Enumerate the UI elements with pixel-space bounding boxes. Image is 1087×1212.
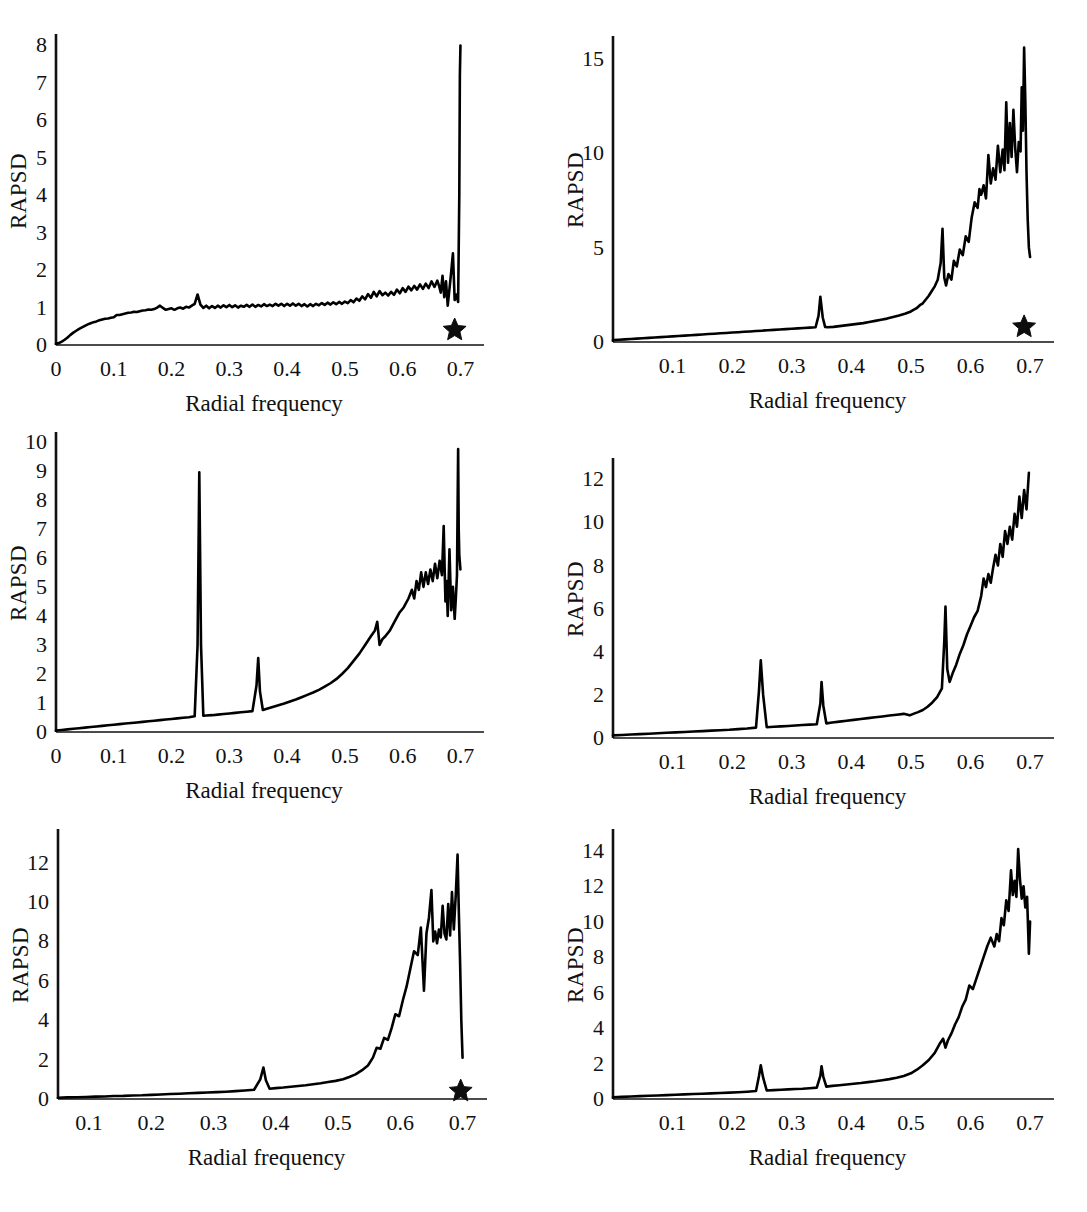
panel-grid: 01234567800.10.20.30.40.50.60.7 RAPSD Ra… [0,0,1087,1205]
x-tick-label: 0.4 [273,356,301,381]
x-tick-label: 0.1 [75,1110,103,1135]
x-tick-label: 0.3 [778,1110,806,1135]
x-tick-label: 0.4 [273,743,301,768]
rapsd-curve [613,48,1030,341]
y-tick-label: 4 [38,1007,49,1032]
x-tick-label: 0.3 [216,356,244,381]
star-marker [449,1079,472,1101]
y-tick-label: 10 [25,429,47,454]
y-tick-label: 4 [593,639,604,664]
x-tick-label: 0.6 [389,743,417,768]
x-tick-label: 0.4 [262,1110,290,1135]
panel-mid-right: 0246810120.10.20.30.40.50.60.7 RAPSD Rad… [545,400,1087,805]
y-tick-label: 6 [36,107,47,132]
x-tick-label: 0.2 [718,353,746,378]
x-tick-label: 0.2 [718,749,746,774]
y-tick-label: 7 [36,70,47,95]
panel-top-left-plot: 01234567800.10.20.30.40.50.60.7 [0,0,545,400]
x-tick-label: 0.6 [389,356,417,381]
x-tick-label: 0.6 [387,1110,415,1135]
x-tick-label: 0.6 [957,353,985,378]
y-tick-label: 2 [36,661,47,686]
x-tick-label: 0.5 [897,1110,925,1135]
y-tick-label: 9 [36,458,47,483]
rapsd-curve [56,45,460,343]
x-tick-label: 0.1 [659,1110,687,1135]
x-tick-label: 0.3 [778,353,806,378]
y-tick-label: 5 [36,145,47,170]
x-tick-label: 0.5 [331,743,359,768]
x-tick-label: 0.1 [100,743,128,768]
y-tick-label: 5 [593,235,604,260]
panel-top-left: 01234567800.10.20.30.40.50.60.7 RAPSD Ra… [0,0,545,400]
y-tick-label: 0 [36,332,47,357]
x-tick-label: 0.5 [324,1110,352,1135]
panel-top-left-ylabel: RAPSD [6,116,32,266]
panel-mid-left-ylabel: RAPSD [6,508,32,658]
panel-bottom-right-ylabel: RAPSD [563,890,589,1040]
y-tick-label: 4 [593,1015,604,1040]
x-tick-label: 0.7 [1016,749,1043,774]
rapsd-curve [613,849,1030,1097]
x-tick-label: 0.2 [158,356,186,381]
x-tick-label: 0.5 [897,353,925,378]
y-tick-label: 1 [36,295,47,320]
y-tick-label: 2 [593,682,604,707]
y-tick-label: 0 [593,329,604,354]
panel-mid-right-ylabel: RAPSD [563,524,589,674]
panel-mid-left: 01234567891000.10.20.30.40.50.60.7 RAPSD… [0,400,545,805]
star-marker [1013,315,1036,337]
y-tick-label: 2 [36,257,47,282]
y-tick-label: 1 [36,690,47,715]
y-tick-label: 12 [582,466,604,491]
rapsd-curve [613,473,1029,736]
x-tick-label: 0.5 [331,356,359,381]
x-tick-label: 0.3 [778,749,806,774]
star-marker [443,318,466,340]
panel-mid-left-xlabel: Radial frequency [114,778,414,804]
y-tick-label: 6 [36,545,47,570]
panel-bottom-left-ylabel: RAPSD [8,890,34,1040]
y-tick-label: 6 [593,980,604,1005]
y-tick-label: 3 [36,220,47,245]
x-tick-label: 0.1 [659,749,687,774]
panel-mid-left-plot: 01234567891000.10.20.30.40.50.60.7 [0,400,545,805]
y-tick-label: 0 [593,1086,604,1111]
x-tick-label: 0.4 [838,353,866,378]
x-tick-label: 0.4 [838,1110,866,1135]
x-tick-label: 0.6 [957,1110,985,1135]
y-tick-label: 15 [582,46,604,71]
rapsd-curve [58,855,463,1098]
y-tick-label: 6 [38,968,49,993]
y-tick-label: 14 [582,838,604,863]
x-tick-label: 0.7 [447,743,475,768]
x-tick-label: 0.3 [200,1110,228,1135]
x-tick-label: 0 [51,356,62,381]
y-tick-label: 2 [38,1047,49,1072]
x-tick-label: 0.7 [447,356,475,381]
y-tick-label: 2 [593,1051,604,1076]
y-tick-label: 8 [36,32,47,57]
y-tick-label: 0 [36,719,47,744]
x-tick-label: 0 [51,743,62,768]
panel-top-right-plot: 0510150.10.20.30.40.50.60.7 [545,0,1087,400]
x-tick-label: 0.4 [838,749,866,774]
y-tick-label: 8 [593,944,604,969]
panel-bottom-left: 0246810120.10.20.30.40.50.60.7 RAPSD Rad… [0,805,545,1205]
y-tick-label: 8 [38,928,49,953]
x-tick-label: 0.1 [100,356,128,381]
panel-bottom-right: 024681012140.10.20.30.40.50.60.7 RAPSD R… [545,805,1087,1205]
y-tick-label: 4 [36,182,47,207]
y-tick-label: 0 [38,1086,49,1111]
y-tick-label: 3 [36,632,47,657]
x-tick-label: 0.6 [957,749,985,774]
x-tick-label: 0.1 [659,353,687,378]
y-tick-label: 6 [593,596,604,621]
panel-mid-right-plot: 0246810120.10.20.30.40.50.60.7 [545,400,1087,805]
y-tick-label: 4 [36,603,47,628]
panel-bottom-right-xlabel: Radial frequency [678,1145,978,1171]
x-tick-label: 0.3 [216,743,244,768]
panel-bottom-left-xlabel: Radial frequency [117,1145,417,1171]
y-tick-label: 8 [36,487,47,512]
x-tick-label: 0.2 [138,1110,166,1135]
